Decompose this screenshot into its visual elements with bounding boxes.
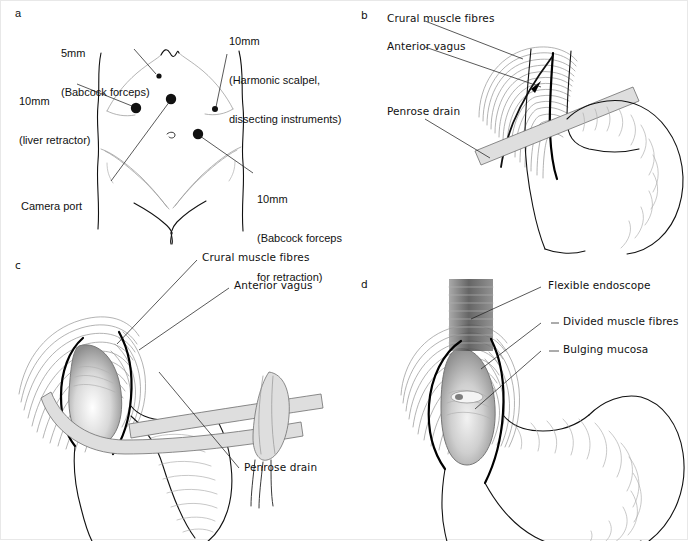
panel-a: a [1,1,345,246]
label-crural-muscle-fibres-c: Crural muscle fibres [202,251,309,263]
leader-penrose-b [425,119,490,158]
panel-b: b [345,1,688,256]
label-camera-port: Camera port [21,174,82,239]
label-flexible-endoscope-d: Flexible endoscope [548,279,651,291]
label-port-10mm-harmonic-line-0: 10mm [229,35,342,48]
label-port-10mm-liver-line-1: (liver retractor) [19,134,91,147]
label-anterior-vagus-b: Anterior vagus [387,40,466,52]
label-crural-muscle-fibres-b: Crural muscle fibres [387,12,494,24]
label-port-10mm-babcock-line-0: 10mm [257,193,342,206]
port-site-10mm-harmonic [212,106,218,112]
stomach-lesser-curve-b [545,249,585,253]
bulging-mucosa-d [441,349,495,465]
label-port-10mm-babcock-line-1: (Babcock forceps [257,232,342,245]
label-camera-port-line-0: Camera port [21,200,82,213]
label-port-10mm-harmonic-line-1: (Harmonic scalpel, [229,74,342,87]
label-penrose-drain-c: Penrose drain [244,461,317,473]
label-port-5mm-line-0: 5mm [61,47,150,60]
label-port-10mm-liver-line-0: 10mm [19,95,91,108]
label-anterior-vagus-c: Anterior vagus [234,279,313,291]
panel-c: c [1,246,345,541]
oesophagus-left-wall [525,49,545,249]
leader-vagus-c [139,288,229,350]
label-port-10mm-harmonic: 10mm (Harmonic scalpel, dissecting instr… [229,9,342,152]
stomach-rugae-b [583,107,658,248]
flexible-endoscope-shaft-d [449,279,493,351]
stomach-greater-curve-d [485,483,641,541]
oesophagus-left-wall-c [74,446,93,541]
panel-d: d [345,259,688,541]
label-port-10mm-liver: 10mm (liver retractor) [19,69,91,173]
port-site-5mm [156,73,161,78]
port-site-10mm-babcock [193,129,203,139]
stomach-rugae-d [515,419,641,541]
leader-vagus-b [425,47,541,87]
leader-crural-c [117,260,197,344]
label-port-10mm-harmonic-line-2: dissecting instruments) [229,113,342,126]
endoscope-lens-dot-d [455,394,463,400]
oesophagus-left-wall-d [442,469,453,541]
label-divided-muscle-fibres-d: Divided muscle fibres [563,315,679,327]
endoscopy-illustration-d [345,259,688,541]
label-penrose-drain-b: Penrose drain [387,105,460,117]
label-bulging-mucosa-d: Bulging mucosa [563,343,648,355]
port-site-camera [166,94,176,104]
leader-10mm-harmonic [216,54,227,107]
